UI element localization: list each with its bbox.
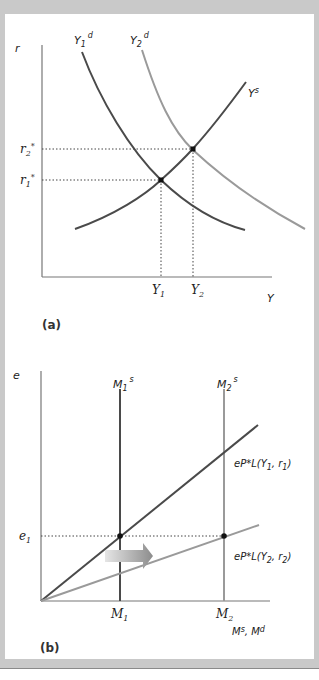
caption-a: (a) — [42, 318, 61, 332]
y1-tick-label: Y1 — [152, 283, 165, 299]
m1s-label: M1s — [113, 375, 134, 393]
equilibrium-point-1 — [159, 178, 164, 183]
panel-b: e M1s M2s eP*L(Y1, r1) eP*L(Y2, r2) e1 M… — [13, 369, 291, 655]
ys-label: Ys — [248, 86, 259, 100]
m2s-label: M2s — [217, 375, 238, 393]
y2-demand-curve — [142, 50, 305, 229]
y1d-label: Y1d — [74, 31, 94, 49]
panel-a: r Y Y1d Y2d Ys r2* r1* Y1 Y2 (a) — [15, 31, 305, 332]
demand-line-2-label: eP*L(Y2, r2) — [234, 551, 291, 565]
demand-line-1-label: eP*L(Y1, r1) — [234, 458, 291, 472]
demand-line-1 — [41, 425, 258, 601]
e1-tick-label: e1 — [19, 529, 31, 545]
shift-right-arrow-icon — [105, 543, 153, 569]
y-supply-curve — [75, 82, 246, 229]
x-axis-label-money: Ms, Md — [232, 625, 266, 637]
y-axis-label-e: e — [13, 369, 20, 382]
y2-tick-label: Y2 — [191, 283, 204, 299]
caption-b: (b) — [40, 641, 60, 655]
x-axis-label-y: Y — [267, 292, 275, 305]
m1-tick-label: M1 — [110, 607, 128, 623]
point-m2-e1 — [221, 533, 227, 539]
y-axis-label-r: r — [15, 42, 21, 55]
y2d-label: Y2d — [130, 31, 150, 49]
y1-demand-curve — [82, 52, 245, 230]
equilibrium-point-2 — [191, 147, 196, 152]
point-m1-e1 — [117, 533, 123, 539]
r2-star-label: r2* — [20, 142, 35, 158]
r1-star-label: r1* — [20, 173, 35, 189]
m2-tick-label: M2 — [215, 607, 233, 623]
